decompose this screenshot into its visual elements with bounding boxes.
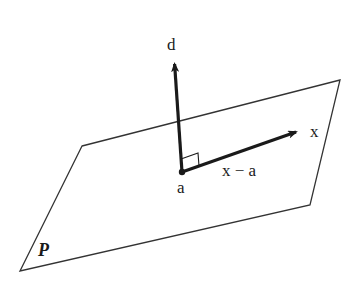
label-a: a xyxy=(177,178,185,197)
normal-vector-d xyxy=(175,64,182,172)
plane-normal-diagram: d x x − a a P xyxy=(0,0,358,295)
label-x-minus-a: x − a xyxy=(222,161,257,180)
plane-p-outline xyxy=(20,80,340,271)
right-angle-marker xyxy=(181,153,199,166)
point-a-dot xyxy=(179,169,185,175)
label-plane-p: P xyxy=(37,240,50,260)
label-x: x xyxy=(310,122,319,141)
label-d: d xyxy=(167,35,176,54)
